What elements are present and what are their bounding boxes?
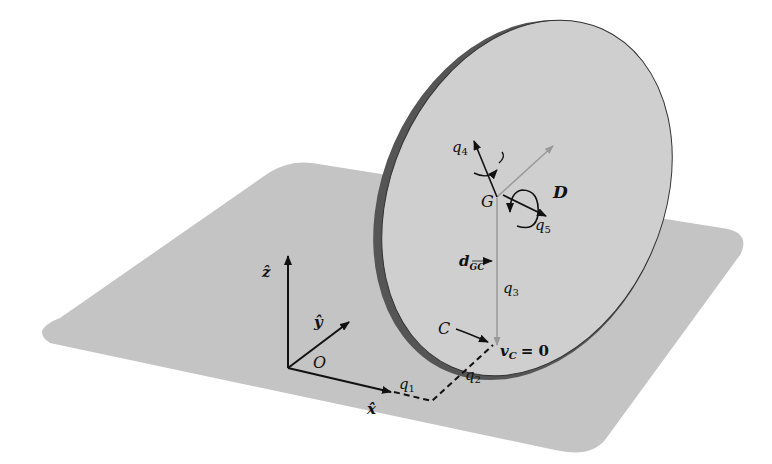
contact-velocity-label: vC= 0 xyxy=(500,342,549,361)
origin-label: O xyxy=(313,353,326,372)
center-g-label: G xyxy=(481,192,494,211)
x-axis-label: x̂ xyxy=(366,400,377,418)
rolling-disc-diagram: ẑ ŷ x̂ O q1 q2 q3 q4 q5 G D C dGC vC= 0 xyxy=(0,0,772,464)
contact-c-label: C xyxy=(438,319,450,338)
disc-d-label: D xyxy=(552,182,568,202)
y-axis-label: ŷ xyxy=(313,313,324,331)
z-axis-label: ẑ xyxy=(261,263,271,281)
